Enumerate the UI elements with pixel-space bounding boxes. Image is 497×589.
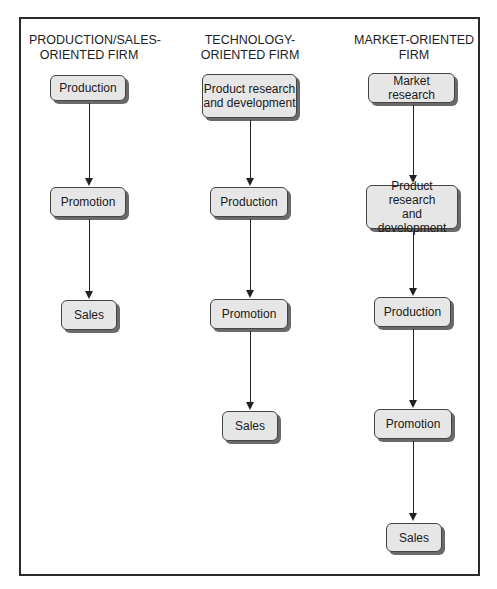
node-label: Production (384, 305, 441, 319)
arrow-down-icon (409, 513, 417, 521)
column-heading-market-oriented: MARKET-ORIENTED FIRM (354, 33, 474, 63)
node-production: Production (210, 187, 288, 217)
connector (250, 219, 251, 292)
heading-line: PRODUCTION/SALES- (29, 33, 149, 48)
node-label: Promotion (222, 307, 277, 321)
node-promotion: Promotion (50, 187, 126, 217)
node-production: Production (50, 75, 126, 101)
node-label: Promotion (386, 417, 441, 431)
node-label: Sales (399, 531, 429, 545)
heading-line: MARKET-ORIENTED (354, 33, 474, 48)
node-label: Market research (369, 74, 454, 102)
node-label: Product research and development (203, 82, 295, 110)
node-production: Production (374, 297, 451, 327)
connector (413, 441, 414, 515)
arrow-down-icon (409, 400, 417, 408)
arrow-down-icon (246, 178, 254, 186)
connector (89, 219, 90, 293)
node-promotion: Promotion (374, 409, 452, 439)
node-label: Product research and development (367, 179, 457, 235)
arrow-down-icon (246, 290, 254, 298)
node-market-research: Market research (368, 73, 455, 103)
arrow-down-icon (85, 178, 93, 186)
node-label: Production (59, 81, 116, 95)
heading-line: TECHNOLOGY- (190, 33, 310, 48)
node-sales: Sales (386, 523, 442, 552)
node-label: Promotion (61, 195, 116, 209)
node-label-line: and development (378, 207, 447, 235)
node-product-research-development: Product research and development (202, 74, 297, 118)
connector (413, 231, 414, 290)
connector (250, 120, 251, 180)
heading-line: ORIENTED FIRM (190, 48, 310, 63)
node-sales: Sales (222, 411, 278, 441)
arrow-down-icon (246, 402, 254, 410)
connector (250, 331, 251, 404)
heading-line: ORIENTED FIRM (29, 48, 149, 63)
node-sales: Sales (61, 300, 117, 330)
node-product-research-development: Product research and development (366, 185, 458, 229)
connector (413, 329, 414, 402)
node-label: Production (220, 195, 277, 209)
heading-line: FIRM (354, 48, 474, 63)
column-heading-technology-oriented: TECHNOLOGY- ORIENTED FIRM (190, 33, 310, 63)
node-promotion: Promotion (210, 299, 288, 329)
node-label-line: and development (203, 96, 295, 110)
arrow-down-icon (409, 288, 417, 296)
arrow-down-icon (85, 291, 93, 299)
node-label: Sales (235, 419, 265, 433)
node-label: Sales (74, 308, 104, 322)
column-heading-production-sales-oriented: PRODUCTION/SALES- ORIENTED FIRM (29, 33, 149, 63)
connector (89, 103, 90, 180)
connector (413, 105, 414, 177)
node-label-line: Product research (389, 179, 436, 207)
node-label-line: Product research (204, 82, 295, 96)
